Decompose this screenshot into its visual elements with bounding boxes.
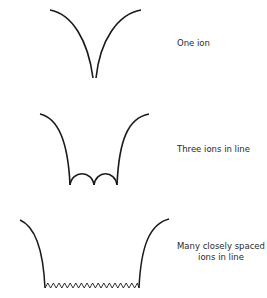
many-ions-label-line1: Many closely spaced (175, 241, 267, 252)
many-ions-label-line2: ions in line (175, 252, 267, 263)
three-ions-label: Three ions in line (177, 144, 250, 155)
many-ions-potential-curve (20, 219, 169, 288)
three-ions-potential-curve (40, 114, 149, 185)
one-ion-label: One ion (177, 38, 210, 49)
many-ions-label: Many closely spaced ions in line (175, 241, 267, 263)
one-ion-potential-curve (50, 10, 141, 78)
